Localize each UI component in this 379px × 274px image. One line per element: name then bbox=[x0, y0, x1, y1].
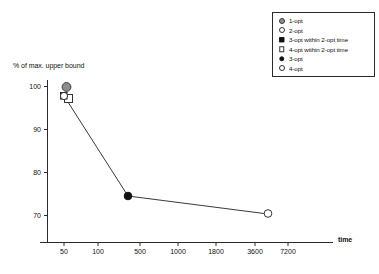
x-tick-label: 1800 bbox=[208, 248, 224, 255]
x-tick-label: 100 bbox=[92, 248, 104, 255]
x-tick-label: 50 bbox=[60, 248, 68, 255]
y-tick-label: 80 bbox=[33, 169, 41, 176]
x-tick-label: 500 bbox=[134, 248, 146, 255]
chart-figure: 1-opt 2-opt 3-opt within 2-opt time 4-op… bbox=[0, 0, 379, 274]
series-connecting-line bbox=[66, 99, 268, 214]
y-tick-label: 90 bbox=[33, 126, 41, 133]
data-point-4-opt bbox=[264, 210, 272, 218]
x-axis-ticks: 50 100 500 1000 1800 3600 7200 bbox=[60, 243, 296, 256]
data-point-1-opt bbox=[62, 83, 71, 92]
x-tick-label: 7200 bbox=[280, 248, 296, 255]
plot-area: 100 90 80 70 50 100 500 1000 1800 3600 7… bbox=[0, 0, 379, 274]
x-tick-label: 3600 bbox=[247, 248, 263, 255]
data-markers bbox=[60, 83, 271, 218]
y-tick-label: 100 bbox=[29, 83, 41, 90]
y-axis-ticks: 100 90 80 70 bbox=[29, 83, 47, 219]
data-point-3-opt bbox=[124, 192, 132, 200]
y-tick-label: 70 bbox=[33, 212, 41, 219]
x-tick-label: 1000 bbox=[170, 248, 186, 255]
data-point-2-opt bbox=[60, 92, 67, 99]
